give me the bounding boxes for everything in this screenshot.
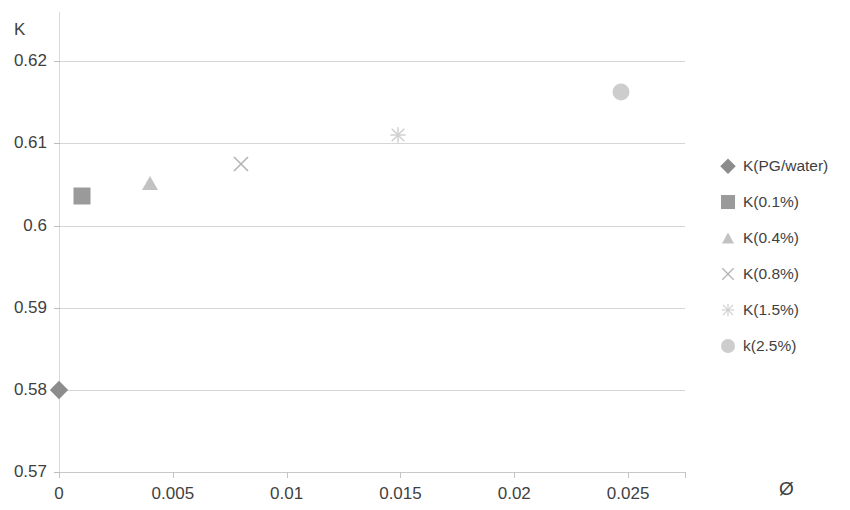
y-axis-tick-label: 0.57: [14, 462, 47, 482]
x-axis-tick: [400, 472, 401, 478]
x-axis-tick: [59, 472, 60, 478]
y-axis-tick-label: 0.59: [14, 298, 47, 318]
x-axis-tick-label: 0.025: [607, 484, 650, 504]
legend-item-label: k(2.5%): [743, 337, 796, 355]
x-axis-title: Ø: [779, 478, 794, 500]
data-point-k-2-5: [613, 83, 630, 100]
x-axis-tick: [287, 472, 288, 478]
x-axis-tick-label: 0.015: [379, 484, 422, 504]
y-axis-tick: [54, 226, 60, 227]
legend-item[interactable]: K(PG/water): [718, 148, 850, 184]
gridline: [59, 390, 685, 391]
square-marker-icon: [718, 192, 738, 212]
legend-item-label: K(1.5%): [743, 301, 799, 319]
data-point-k-0-4: [142, 176, 158, 190]
triangle-marker-icon: [718, 228, 738, 248]
x-axis-tick-label: 0.01: [270, 484, 303, 504]
data-point-k-1-5: [389, 126, 407, 144]
gridline: [59, 226, 685, 227]
x-axis-end-tick: [685, 472, 686, 478]
data-point-k-pg-water: [50, 381, 68, 399]
gridline: [59, 143, 685, 144]
x-axis-tick-label: 0.02: [498, 484, 531, 504]
legend-item[interactable]: K(0.8%): [718, 256, 850, 292]
x-axis-tick: [514, 472, 515, 478]
y-axis-tick: [54, 308, 60, 309]
legend-item[interactable]: K(1.5%): [718, 292, 850, 328]
y-axis-tick-label: 0.58: [14, 380, 47, 400]
x-cross-marker-icon: [718, 264, 738, 284]
y-axis-tick: [54, 143, 60, 144]
legend-item-label: K(0.8%): [743, 265, 799, 283]
legend-item-label: K(PG/water): [743, 157, 828, 175]
y-axis-tick-label: 0.61: [14, 133, 47, 153]
data-point-k-0-1: [73, 188, 90, 205]
legend-item[interactable]: K(0.1%): [718, 184, 850, 220]
x-axis-tick: [173, 472, 174, 478]
legend-item[interactable]: k(2.5%): [718, 328, 850, 364]
y-axis-tick-label: 0.62: [14, 51, 47, 71]
gridline: [59, 308, 685, 309]
scatter-chart: K Ø 0.570.580.590.60.610.62 00.0050.010.…: [0, 0, 850, 510]
circle-marker-icon: [718, 336, 738, 356]
legend-item-label: K(0.4%): [743, 229, 799, 247]
y-axis-tick-label: 0.6: [23, 216, 47, 236]
legend-item-label: K(0.1%): [743, 193, 799, 211]
plot-area: 0.570.580.590.60.610.62 00.0050.010.0150…: [59, 12, 685, 472]
gridline: [59, 472, 685, 473]
x-axis-tick-label: 0.005: [152, 484, 195, 504]
star-marker-icon: [718, 300, 738, 320]
gridline: [59, 61, 685, 62]
legend-item[interactable]: K(0.4%): [718, 220, 850, 256]
x-axis-tick: [628, 472, 629, 478]
data-point-k-0-8: [231, 154, 251, 174]
x-axis-tick-label: 0: [54, 484, 63, 504]
y-axis-tick: [54, 61, 60, 62]
y-axis-title: K: [14, 20, 25, 40]
diamond-marker-icon: [718, 156, 738, 176]
chart-legend: K(PG/water)K(0.1%)K(0.4%)K(0.8%)K(1.5%)k…: [718, 148, 850, 364]
